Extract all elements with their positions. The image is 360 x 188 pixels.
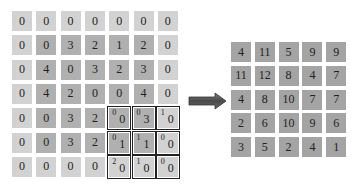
input-cell: 4: [134, 84, 154, 104]
padding-cell: 0: [158, 60, 178, 80]
output-cell: 10: [279, 113, 299, 133]
padding-cell: 0: [12, 11, 32, 31]
output-cell: 7: [326, 90, 346, 110]
output-cell: 2: [279, 137, 299, 157]
padding-cell: 0: [36, 11, 56, 31]
input-cell: 2: [61, 84, 81, 104]
padding-cell: 0: [61, 11, 81, 31]
input-cell: 4: [36, 60, 56, 80]
input-cell: 2: [134, 35, 154, 55]
padding-cell: 0: [12, 108, 32, 128]
output-cell: 4: [231, 90, 251, 110]
output-cell: 2: [231, 113, 251, 133]
kernel-cell: [156, 106, 180, 130]
output-cell: 3: [231, 137, 251, 157]
kernel-cell: [132, 155, 156, 179]
input-cell: 0: [36, 35, 56, 55]
kernel-cell: [107, 131, 131, 155]
input-cell: 0: [36, 108, 56, 128]
input-cell: 3: [134, 60, 154, 80]
input-cell: 0: [61, 60, 81, 80]
output-cell: 4: [302, 137, 322, 157]
output-cell: 6: [326, 113, 346, 133]
output-cell: 12: [255, 66, 275, 86]
input-cell: 3: [61, 108, 81, 128]
output-cell: 4: [302, 66, 322, 86]
input-cell: 2: [85, 35, 105, 55]
kernel-cell: [132, 131, 156, 155]
input-cell: 0: [85, 84, 105, 104]
output-cell: 11: [255, 42, 275, 62]
kernel-weight: 1: [161, 109, 165, 117]
output-cell: 9: [302, 113, 322, 133]
output-cell: 8: [279, 66, 299, 86]
padding-cell: 0: [36, 157, 56, 177]
padding-cell: 0: [158, 84, 178, 104]
output-cell: 7: [326, 66, 346, 86]
padding-cell: 0: [61, 157, 81, 177]
output-cell: 9: [326, 42, 346, 62]
output-cell: 5: [279, 42, 299, 62]
input-cell: 2: [85, 133, 105, 153]
kernel-weight: 1: [137, 134, 141, 142]
padding-cell: 0: [12, 157, 32, 177]
padding-cell: 0: [12, 35, 32, 55]
padding-cell: 0: [12, 84, 32, 104]
kernel-cell: [132, 106, 156, 130]
input-cell: 0: [109, 84, 129, 104]
input-cell: 2: [85, 108, 105, 128]
padding-cell: 0: [109, 11, 129, 31]
kernel-weight: 0: [112, 134, 116, 142]
input-cell: 3: [85, 60, 105, 80]
padding-cell: 0: [12, 60, 32, 80]
kernel-weight: 1: [137, 158, 141, 166]
kernel-weight: 0: [161, 134, 165, 142]
padding-cell: 0: [158, 11, 178, 31]
kernel-cell: [107, 155, 131, 179]
output-cell: 11: [231, 66, 251, 86]
input-cell: 3: [61, 35, 81, 55]
kernel-cell: [156, 131, 180, 155]
input-cell: 0: [36, 133, 56, 153]
kernel-cell: [107, 106, 131, 130]
kernel-weight: 0: [112, 109, 116, 117]
output-cell: 7: [302, 90, 322, 110]
padding-cell: 0: [12, 133, 32, 153]
output-cell: 5: [255, 137, 275, 157]
input-cell: 1: [109, 35, 129, 55]
kernel-cell: [156, 155, 180, 179]
input-cell: 4: [36, 84, 56, 104]
padding-cell: 0: [85, 157, 105, 177]
padding-cell: 0: [158, 35, 178, 55]
output-cell: 10: [279, 90, 299, 110]
output-cell: 9: [302, 42, 322, 62]
kernel-weight: 0: [137, 109, 141, 117]
output-cell: 4: [231, 42, 251, 62]
padding-cell: 0: [85, 11, 105, 31]
input-cell: 2: [109, 60, 129, 80]
input-cell: 3: [61, 133, 81, 153]
output-cell: 8: [255, 90, 275, 110]
kernel-weight: 2: [112, 158, 116, 166]
kernel-weight: 0: [161, 158, 165, 166]
right-arrow-icon: [188, 92, 228, 110]
padding-cell: 0: [134, 11, 154, 31]
output-cell: 6: [255, 113, 275, 133]
output-cell: 1: [326, 137, 346, 157]
